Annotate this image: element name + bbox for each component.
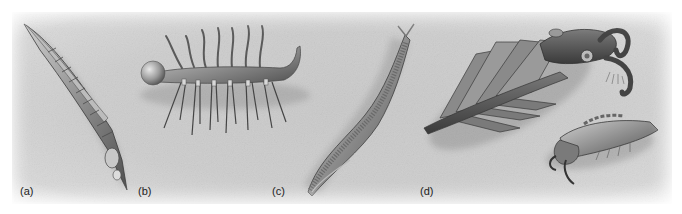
panel-label-d: (d) bbox=[420, 186, 433, 197]
panel-label-c: (c) bbox=[272, 186, 285, 197]
panel-label-a: (a) bbox=[20, 186, 33, 197]
panel-label-b: (b) bbox=[138, 186, 151, 197]
creatures-illustration bbox=[0, 0, 682, 214]
illustration-figure: (a) (b) (c) (d) bbox=[0, 0, 682, 214]
